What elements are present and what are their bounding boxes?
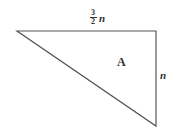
area-label: A: [117, 56, 126, 68]
triangle-diagram: 3 2 n n A: [0, 0, 169, 134]
fraction-numerator: 3: [91, 9, 95, 17]
top-side-variable: n: [99, 13, 105, 24]
fraction-denominator: 2: [91, 18, 95, 26]
top-side-fraction: 3 2: [89, 9, 97, 26]
right-side-label: n: [160, 70, 166, 81]
triangle-shape: [0, 0, 169, 134]
